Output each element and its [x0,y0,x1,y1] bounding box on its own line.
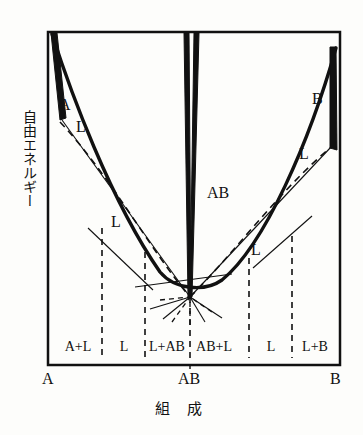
curve-label-L-mid-left: L [111,213,121,231]
tangent-dash-ray-3 [190,297,212,312]
x-tick-label-B: B [330,370,341,388]
tangent-line-right-1 [253,216,312,268]
phase-band-label-l-right: L [255,339,287,355]
curve-label-AB: AB [207,184,229,202]
curve-pure-B [330,47,337,150]
x-tick-label-A: A [42,370,54,388]
phase-band-label-ab-plus-l: AB+L [188,339,240,355]
phase-band-label-l-left: L [108,339,140,355]
phase-band-label-a-plus-l: A+L [52,339,104,355]
x-tick-label-AB: AB [178,370,200,388]
phase-band-label-l-plus-ab: L+AB [141,339,193,355]
tangent-line-left-1 [88,228,153,290]
tangent-convergence-point [188,295,192,299]
tangent-ray-4 [190,297,205,322]
curve-label-B: B [312,90,323,108]
tangent-line-A [62,120,190,297]
phase-band-label-l-plus-b: L+B [292,339,338,355]
curve-label-A: A [59,96,71,114]
tangent-construction-lines [62,120,331,322]
free-energy-diagram: 自由エネルギー [0,0,363,435]
curve-label-L-mid-right: L [251,241,261,259]
curve-label-L-top-left: L [76,118,86,136]
x-axis-label: 組 成 [0,397,363,418]
curve-AB-left-branch [184,33,191,297]
tangent-ray-2 [163,297,190,319]
tangent-line-B [190,147,331,297]
curve-AB-right-branch [190,33,199,297]
curve-label-L-top-right: L [299,145,309,163]
